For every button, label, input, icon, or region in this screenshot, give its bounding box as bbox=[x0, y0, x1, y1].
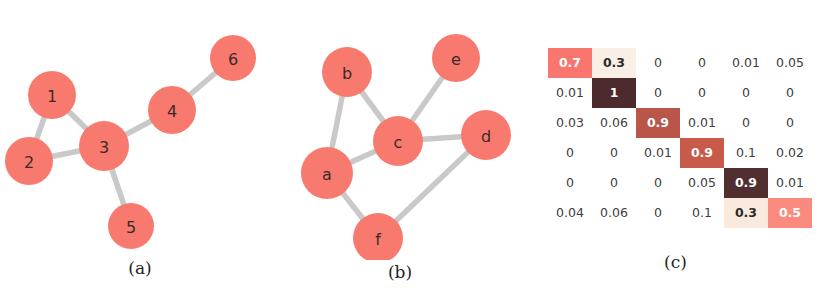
graph-node-e[interactable]: e bbox=[432, 34, 480, 82]
graph-node-5[interactable]: 5 bbox=[108, 203, 154, 249]
node-label: d bbox=[481, 127, 491, 146]
matrix-cell-r3c5: 0 bbox=[724, 108, 768, 138]
matrix-cell-r6c5: 0.3 bbox=[724, 198, 768, 228]
matrix-cell-r5c4: 0.05 bbox=[680, 168, 724, 198]
node-label: 3 bbox=[99, 138, 109, 157]
matrix-cell-r3c4: 0.01 bbox=[680, 108, 724, 138]
node-label: 2 bbox=[24, 153, 34, 172]
matrix-cell-r1c1: 0.7 bbox=[548, 48, 592, 78]
graph-node-c[interactable]: c bbox=[373, 116, 423, 166]
matrix-cell-r6c1: 0.04 bbox=[548, 198, 592, 228]
graph-node-3[interactable]: 3 bbox=[79, 121, 129, 171]
matrix-row: 0.0110000 bbox=[548, 78, 812, 108]
matrix-cell-r1c2: 0.3 bbox=[592, 48, 636, 78]
matrix-cell-r2c3: 0 bbox=[636, 78, 680, 108]
matrix-cell-r4c1: 0 bbox=[548, 138, 592, 168]
matrix-cell-r1c5: 0.01 bbox=[724, 48, 768, 78]
node-label: e bbox=[451, 50, 461, 69]
matrix-cell-r2c5: 0 bbox=[724, 78, 768, 108]
matrix-cell-r6c2: 0.06 bbox=[592, 198, 636, 228]
matrix-cell-r1c6: 0.05 bbox=[768, 48, 812, 78]
node-label: c bbox=[394, 133, 403, 152]
matrix-cell-r3c2: 0.06 bbox=[592, 108, 636, 138]
matrix-cell-r2c4: 0 bbox=[680, 78, 724, 108]
panel-a-caption: (a) bbox=[0, 258, 280, 278]
matrix-cell-r2c2: 1 bbox=[592, 78, 636, 108]
matrix-cell-r3c1: 0.03 bbox=[548, 108, 592, 138]
matrix-cell-r4c5: 0.1 bbox=[724, 138, 768, 168]
graph-node-4[interactable]: 4 bbox=[148, 86, 196, 134]
matrix-cell-r6c6: 0.5 bbox=[768, 198, 812, 228]
matrix-cell-r1c4: 0 bbox=[680, 48, 724, 78]
matrix-cell-r5c2: 0 bbox=[592, 168, 636, 198]
node-label: a bbox=[322, 165, 332, 184]
matrix-cell-r4c2: 0 bbox=[592, 138, 636, 168]
matrix-cell-r5c6: 0.01 bbox=[768, 168, 812, 198]
node-label: 1 bbox=[47, 87, 57, 106]
matrix-cell-r3c6: 0 bbox=[768, 108, 812, 138]
panel-b-caption: (b) bbox=[280, 262, 520, 282]
graph-node-2[interactable]: 2 bbox=[5, 137, 53, 185]
panel-a-graph: 123456 (a) bbox=[0, 0, 280, 297]
node-label: 6 bbox=[228, 50, 238, 69]
panel-b-graph: becdaf (b) bbox=[280, 0, 520, 297]
node-label: 5 bbox=[126, 218, 136, 237]
panel-c-caption: (c) bbox=[520, 252, 831, 272]
graph-b-canvas: becdaf bbox=[280, 0, 520, 260]
panel-c-matrix: 0.70.3000.010.050.01100000.030.060.90.01… bbox=[520, 0, 831, 297]
matrix-cell-r6c3: 0 bbox=[636, 198, 680, 228]
matrix-cell-r2c1: 0.01 bbox=[548, 78, 592, 108]
matrix-cell-r2c6: 0 bbox=[768, 78, 812, 108]
graph-node-a[interactable]: a bbox=[301, 147, 353, 199]
graph-a-canvas: 123456 bbox=[0, 0, 280, 260]
node-label: 4 bbox=[167, 102, 177, 121]
matrix-cell-r4c3: 0.01 bbox=[636, 138, 680, 168]
matrix-row: 0.70.3000.010.05 bbox=[548, 48, 812, 78]
graph-node-1[interactable]: 1 bbox=[28, 71, 76, 119]
graph-node-b[interactable]: b bbox=[322, 47, 372, 97]
graph-node-6[interactable]: 6 bbox=[210, 35, 256, 81]
matrix-cell-r6c4: 0.1 bbox=[680, 198, 724, 228]
matrix-row: 0.040.0600.10.30.5 bbox=[548, 198, 812, 228]
matrix-cell-r5c1: 0 bbox=[548, 168, 592, 198]
matrix-row: 0.030.060.90.0100 bbox=[548, 108, 812, 138]
matrix-cell-r3c3: 0.9 bbox=[636, 108, 680, 138]
probability-matrix: 0.70.3000.010.050.01100000.030.060.90.01… bbox=[548, 48, 812, 228]
graph-node-d[interactable]: d bbox=[461, 110, 511, 160]
matrix-cell-r5c5: 0.9 bbox=[724, 168, 768, 198]
node-label: f bbox=[375, 230, 381, 249]
matrix-row: 000.010.90.10.02 bbox=[548, 138, 812, 168]
node-label: b bbox=[342, 64, 352, 83]
matrix-cell-r5c3: 0 bbox=[636, 168, 680, 198]
matrix-cell-r4c6: 0.02 bbox=[768, 138, 812, 168]
figure-root: 123456 (a) becdaf (b) 0.70.3000.010.050.… bbox=[0, 0, 831, 297]
matrix-row: 0000.050.90.01 bbox=[548, 168, 812, 198]
matrix-cell-r4c4: 0.9 bbox=[680, 138, 724, 168]
matrix-cell-r1c3: 0 bbox=[636, 48, 680, 78]
